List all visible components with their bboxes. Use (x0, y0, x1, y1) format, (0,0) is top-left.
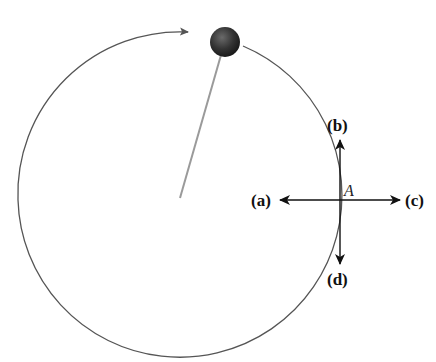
label-a: (a) (251, 191, 271, 210)
string (180, 55, 221, 198)
label-b: (b) (327, 116, 348, 135)
motion-direction-arrow (18, 32, 188, 200)
vertical-circle-diagram: (a) (c) (b) (d) A (0, 0, 436, 362)
ball (210, 27, 240, 57)
label-d: (d) (327, 270, 348, 289)
diagram-canvas: (a) (c) (b) (d) A (0, 0, 436, 362)
circular-path (18, 46, 342, 357)
label-point-A: A (343, 182, 354, 199)
label-c: (c) (405, 191, 424, 210)
